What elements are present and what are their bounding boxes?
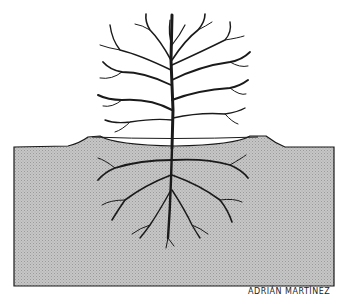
soil-block [14, 136, 334, 286]
tree-illustration [0, 0, 351, 302]
artist-signature: ADRIÁN MARTÍNEZ [248, 287, 330, 296]
